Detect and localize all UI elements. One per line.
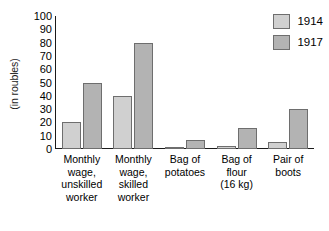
legend-item-1917: 1917 [273,35,323,50]
category-label: Bag ofpotatoes [159,153,211,178]
bar-1914 [62,122,81,149]
category-label-line: boots [262,166,314,179]
bar-group [108,16,160,149]
bar-1917 [83,83,102,150]
category-label-line: wage, [56,166,108,179]
category-label-line: Monthly [108,153,160,166]
bar-group [159,16,211,149]
legend: 19141917 [273,14,323,56]
y-tick-50: 50 [40,77,52,88]
category-label-line: potatoes [159,166,211,179]
bar-1914 [217,146,236,149]
bar-chart: (in roubles) 1009080706050403020100 Mont… [0,0,329,231]
legend-item-1914: 1914 [273,14,323,29]
bar-1914 [113,96,132,149]
legend-swatch-icon [273,14,290,29]
category-label-line: Bag of [211,153,263,166]
y-tick-70: 70 [40,50,52,61]
y-tick-100: 100 [34,11,52,22]
category-label: Monthlywage,skilledworker [108,153,160,203]
legend-label: 1914 [297,16,323,28]
y-tick-90: 90 [40,24,52,35]
category-label-line: worker [108,191,160,204]
category-label-line: Bag of [159,153,211,166]
bar-1917 [289,109,308,149]
bar-1914 [165,147,184,149]
category-label: Monthlywage,unskilledworker [56,153,108,203]
category-label: Pair ofboots [262,153,314,178]
bar-1917 [186,140,205,149]
bar-1917 [134,43,153,149]
y-tick-0: 0 [46,144,52,155]
bar-group [56,16,108,149]
y-axis-label: (in roubles) [8,39,20,129]
y-tick-40: 40 [40,90,52,101]
category-label-line: Pair of [262,153,314,166]
y-axis-tick-labels: 1009080706050403020100 [22,0,52,231]
y-tick-80: 80 [40,37,52,48]
bar-group [211,16,263,149]
legend-swatch-icon [273,35,290,50]
bar-1917 [238,128,257,149]
category-label-line: unskilled [56,178,108,191]
legend-label: 1917 [297,37,323,49]
category-label: Bag offlour(16 kg) [211,153,263,191]
category-label-line: wage, [108,166,160,179]
y-tick-30: 30 [40,104,52,115]
category-label-line: (16 kg) [211,178,263,191]
category-label-line: flour [211,166,263,179]
y-tick-20: 20 [40,117,52,128]
y-tick-10: 10 [40,130,52,141]
category-label-line: skilled [108,178,160,191]
y-tick-60: 60 [40,64,52,75]
bar-1914 [268,142,287,149]
category-label-line: worker [56,191,108,204]
category-label-line: Monthly [56,153,108,166]
